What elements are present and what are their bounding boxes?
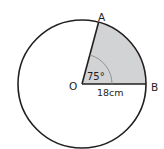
sector-diagram: A O B 75° 18cm <box>0 0 164 149</box>
angle-label: 75° <box>87 71 105 82</box>
point-label-a: A <box>98 11 106 23</box>
point-label-b: B <box>151 81 158 93</box>
point-label-o: O <box>69 80 77 92</box>
radius-length-label: 18cm <box>97 87 124 98</box>
